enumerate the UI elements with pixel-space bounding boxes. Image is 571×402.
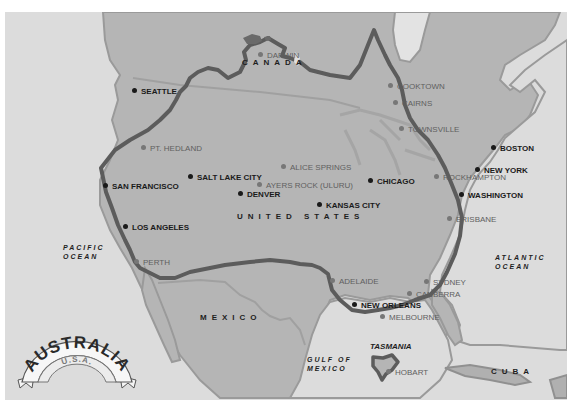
city-name: PERTH <box>143 258 170 267</box>
us-city-san-francisco: SAN FRANCISCO <box>103 182 179 191</box>
au-city-perth: PERTH <box>134 258 170 267</box>
us-city-los-angeles: LOS ANGELES <box>123 223 189 232</box>
us-city-seattle: SEATTLE <box>132 87 177 96</box>
au-city-adelaide: ADELAIDE <box>330 277 379 286</box>
country-label-cuba: CUBA <box>491 367 534 376</box>
city-dot-icon <box>281 164 286 169</box>
au-city-hobart: HOBART <box>386 368 428 377</box>
us-city-kansas-city: KANSAS CITY <box>317 201 380 210</box>
city-name: COOKTOWN <box>397 82 445 91</box>
city-dot-icon <box>134 259 139 264</box>
city-dot-icon <box>132 88 137 93</box>
city-dot-icon <box>330 278 335 283</box>
city-name: SALT LAKE CITY <box>197 173 262 182</box>
us-city-denver: DENVER <box>238 190 280 199</box>
country-label-united-states: UNITED STATES <box>237 212 364 221</box>
city-dot-icon <box>475 167 480 172</box>
city-name: SYDNEY <box>433 278 466 287</box>
city-name: PT. HEDLAND <box>150 144 202 153</box>
city-dot-icon <box>352 302 357 307</box>
ocean-label-atlantic: ATLANTIC OCEAN <box>495 253 545 271</box>
city-name: BOSTON <box>500 144 534 153</box>
ocean-label-pacific: PACIFIC OCEAN <box>63 243 104 261</box>
city-dot-icon <box>393 100 398 105</box>
city-dot-icon <box>258 52 263 57</box>
ocean-line1: ATLANTIC <box>495 253 545 262</box>
au-city-darwin: DARWIN <box>258 51 299 60</box>
ocean-line1: PACIFIC <box>63 243 104 252</box>
city-dot-icon <box>257 182 262 187</box>
city-dot-icon <box>388 83 393 88</box>
ocean-line2: OCEAN <box>63 252 104 261</box>
city-name: KANSAS CITY <box>326 201 380 210</box>
ocean-line1: GULF OF <box>307 355 352 364</box>
au-city-pt-hedland: PT. HEDLAND <box>141 144 202 153</box>
city-dot-icon <box>380 314 385 319</box>
city-name: WASHINGTON <box>468 191 523 200</box>
city-dot-icon <box>141 145 146 150</box>
au-city-ayers-rock: AYERS ROCK (ULURU) <box>257 181 353 190</box>
city-name: NEW ORLEANS <box>361 301 421 310</box>
au-city-canberra: CANBERRA <box>407 290 460 299</box>
city-name: CAIRNS <box>402 99 432 108</box>
city-dot-icon <box>386 369 391 374</box>
au-city-townsville: TOWNSVILLE <box>399 125 459 134</box>
city-dot-icon <box>407 291 412 296</box>
city-dot-icon <box>188 174 193 179</box>
city-name: HOBART <box>395 368 428 377</box>
us-city-boston: BOSTON <box>491 144 534 153</box>
city-name: ROCKHAMPTON <box>443 173 506 182</box>
tasmania-label: TASMANIA <box>370 342 412 351</box>
au-city-brisbane: BRISBANE <box>447 215 496 224</box>
city-dot-icon <box>491 145 496 150</box>
city-name: MELBOURNE <box>389 313 440 322</box>
city-name: BRISBANE <box>456 215 496 224</box>
city-name: DENVER <box>247 190 280 199</box>
city-dot-icon <box>368 178 373 183</box>
city-dot-icon <box>238 191 243 196</box>
us-city-salt-lake-city: SALT LAKE CITY <box>188 173 262 182</box>
city-name: ALICE SPRINGS <box>290 163 351 172</box>
au-city-melbourne: MELBOURNE <box>380 313 440 322</box>
ribbon-banner-icon: AUSTRALIA U.S.A. <box>12 320 142 390</box>
country-label-mexico: MEXICO <box>200 313 262 322</box>
ocean-label-gulf-of-mexico: GULF OF MEXICO <box>307 355 352 373</box>
au-city-cooktown: COOKTOWN <box>388 82 445 91</box>
city-dot-icon <box>447 216 452 221</box>
city-name: CHICAGO <box>377 177 415 186</box>
city-name: AYERS ROCK (ULURU) <box>266 181 353 190</box>
ocean-line2: OCEAN <box>495 262 545 271</box>
city-dot-icon <box>459 192 464 197</box>
au-city-rockhampton: ROCKHAMPTON <box>434 173 506 182</box>
city-name: SAN FRANCISCO <box>112 182 179 191</box>
city-name: TOWNSVILLE <box>408 125 459 134</box>
city-dot-icon <box>123 224 128 229</box>
city-dot-icon <box>434 174 439 179</box>
ocean-line2: MEXICO <box>307 364 352 373</box>
city-dot-icon <box>317 202 322 207</box>
city-name: ADELAIDE <box>339 277 379 286</box>
city-dot-icon <box>103 183 108 188</box>
city-name: DARWIN <box>267 51 299 60</box>
city-name: CANBERRA <box>416 290 460 299</box>
city-name: LOS ANGELES <box>132 223 189 232</box>
svg-text:U.S.A.: U.S.A. <box>60 355 94 367</box>
us-city-new-orleans: NEW ORLEANS <box>352 301 421 310</box>
city-dot-icon <box>399 126 404 131</box>
badge-subtitle: U.S.A. <box>60 355 94 367</box>
city-dot-icon <box>424 279 429 284</box>
au-city-cairns: CAIRNS <box>393 99 432 108</box>
us-city-washington: WASHINGTON <box>459 191 523 200</box>
au-city-sydney: SYDNEY <box>424 278 466 287</box>
us-city-chicago: CHICAGO <box>368 177 415 186</box>
au-city-alice-springs: ALICE SPRINGS <box>281 163 351 172</box>
title-badge: AUSTRALIA U.S.A. <box>12 320 142 390</box>
city-name: SEATTLE <box>141 87 177 96</box>
